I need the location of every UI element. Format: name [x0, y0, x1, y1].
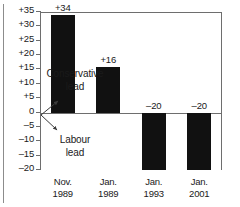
y-tick-label: +15 [18, 62, 34, 72]
bar-value-label: +16 [88, 55, 128, 65]
annotation-line-1: Labour [50, 133, 100, 146]
bar-value-label: –20 [134, 101, 174, 111]
y-tick-mark [36, 126, 41, 127]
annotation-line-2: lead [50, 146, 100, 159]
category-label-line: 1993 [132, 188, 176, 200]
bar-value-label: –20 [179, 101, 219, 111]
y-tick-label: +35 [18, 5, 34, 15]
y-tick-mark [36, 54, 41, 55]
category-label-line: Jan. [86, 176, 130, 188]
y-tick-mark [36, 68, 41, 69]
y-tick-mark [36, 25, 41, 26]
y-tick-mark [36, 83, 41, 84]
bar [142, 113, 166, 170]
y-tick-mark [36, 140, 41, 141]
y-tick-label: +25 [18, 34, 34, 44]
bar [51, 15, 75, 113]
annotation-line-1: Conservative [44, 67, 106, 80]
bar-value-label: +34 [43, 3, 83, 13]
y-tick-mark [36, 155, 41, 156]
y-tick-label: +10 [18, 77, 34, 87]
category-label-line: Jan. [132, 176, 176, 188]
y-tick-mark [36, 11, 41, 12]
y-tick-mark [36, 40, 41, 41]
category-label-line: 1989 [86, 188, 130, 200]
annotation-line-2: lead [44, 80, 106, 93]
annotation-conservative-lead: Conservative lead [44, 67, 106, 93]
bar [187, 113, 211, 170]
category-label-line: Nov. [41, 176, 85, 188]
bar-chart-figure: +35+30+25+20+15+10+50–5–10–15–20 +34+16–… [0, 0, 240, 207]
y-tick-label: +5 [24, 91, 34, 101]
y-tick-label: +20 [18, 48, 34, 58]
y-tick-mark [36, 97, 41, 98]
x-axis-category-label: Jan.2001 [177, 176, 221, 200]
y-tick-label: 0 [29, 106, 34, 116]
y-tick-label: +30 [18, 19, 34, 29]
x-axis-category-label: Nov.1989 [41, 176, 85, 200]
category-label-line: 1989 [41, 188, 85, 200]
y-tick-label: –20 [19, 163, 34, 173]
x-axis-category-label: Jan.1993 [132, 176, 176, 200]
category-label-line: 2001 [177, 188, 221, 200]
y-tick-label: –15 [19, 149, 34, 159]
y-tick-label: –10 [19, 134, 34, 144]
y-tick-mark [36, 169, 41, 170]
y-tick-label: –5 [24, 120, 34, 130]
category-label-line: Jan. [177, 176, 221, 188]
x-axis-category-label: Jan.1989 [86, 176, 130, 200]
y-axis: +35+30+25+20+15+10+50–5–10–15–20 [0, 12, 41, 170]
annotation-labour-lead: Labour lead [50, 133, 100, 159]
